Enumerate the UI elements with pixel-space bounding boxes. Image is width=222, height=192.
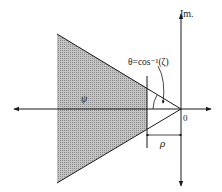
angle-label: θ=cos⁻¹(ζ) (128, 57, 169, 68)
rho-tick-right (180, 134, 182, 136)
region-label-psi: ψ (81, 93, 88, 104)
s-plane-diagram: Im. 0 θ=cos⁻¹(ζ) ψ ρ (0, 0, 222, 192)
origin-label: 0 (183, 113, 188, 123)
rho-tick-left (147, 134, 149, 136)
rho-label: ρ (159, 137, 165, 149)
angle-arc (153, 95, 157, 109)
imaginary-axis-label: Im. (180, 8, 194, 19)
angle-pointer-arrow (158, 66, 164, 103)
